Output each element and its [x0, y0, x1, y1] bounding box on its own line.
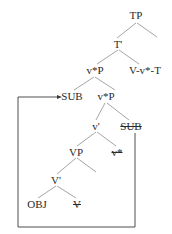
- node-vstar-p-lower: v*P: [97, 91, 114, 102]
- node-vstar-trace: v*: [112, 147, 123, 158]
- node-sub: SUB: [61, 91, 82, 102]
- node-v-bar: v': [92, 121, 99, 132]
- node-sub-trace: SUB: [120, 121, 141, 132]
- syntax-tree-diagram: TP T' v*P V-v*-T SUB v*P v' SUB VP v* V'…: [0, 0, 172, 234]
- node-vp: VP: [69, 147, 83, 158]
- node-obj: OBJ: [27, 199, 47, 210]
- node-t-bar: T': [114, 39, 123, 50]
- node-v-trace: V: [73, 199, 81, 210]
- node-vstar-p-upper: v*P: [86, 65, 103, 76]
- node-v-vstar-t: V-v*-T: [129, 65, 161, 76]
- node-V-bar: V': [51, 175, 61, 186]
- tree-branches: [0, 0, 172, 234]
- node-tp: TP: [130, 10, 143, 21]
